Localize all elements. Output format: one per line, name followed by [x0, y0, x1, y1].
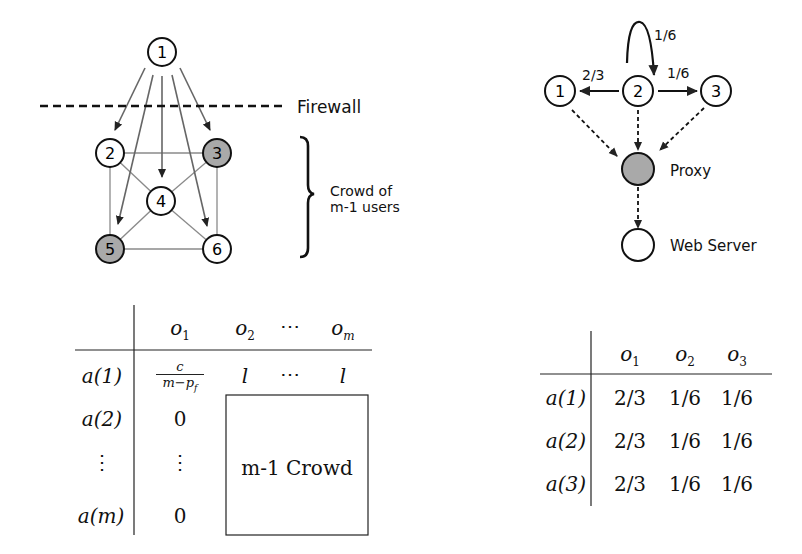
- node-2: 2: [96, 139, 124, 167]
- node-5: 5: [96, 235, 124, 263]
- node-3: 3: [203, 139, 231, 167]
- cell-vdots-o1: ⋮: [155, 450, 205, 474]
- rcell-a1-o3: 1/6: [712, 386, 762, 410]
- row-label-a2: a(2): [72, 407, 132, 431]
- cell-a2-o1: 0: [155, 407, 205, 431]
- self-loop-prob: 1/6: [654, 27, 677, 43]
- crowd-brace: [300, 137, 314, 257]
- rcell-a2-o3: 1/6: [712, 429, 762, 453]
- crowd-box-label: m-1 Crowd: [226, 456, 368, 480]
- rcell-a2-o1: 2/3: [605, 429, 655, 453]
- firewall-label: Firewall: [297, 97, 361, 117]
- crowd-label-line2: m-1 users: [330, 199, 400, 215]
- webserver-label: Web Server: [670, 237, 757, 255]
- cell-a1-om: l: [318, 364, 368, 388]
- rcell-a3-o2: 1/6: [660, 472, 710, 496]
- rnode-1: 1: [545, 76, 575, 106]
- rcell-a1-o1: 2/3: [605, 386, 655, 410]
- col-header-o1: o1: [155, 316, 205, 343]
- row-label-vdots: ⋮: [72, 450, 132, 474]
- svg-text:2: 2: [633, 82, 643, 101]
- svg-text:1: 1: [157, 43, 167, 62]
- svg-text:5: 5: [105, 240, 115, 259]
- to-node1-prob: 2/3: [582, 67, 605, 83]
- rcell-a3-o1: 2/3: [605, 472, 655, 496]
- rcell-a2-o2: 1/6: [660, 429, 710, 453]
- row-label-am: a(m): [68, 504, 134, 528]
- rnode-2: 2: [623, 76, 653, 106]
- col-header-o2: o2: [225, 316, 265, 343]
- rcol-header-o2: o2: [660, 342, 710, 369]
- svg-text:4: 4: [156, 192, 166, 211]
- proxy-node: [622, 153, 654, 185]
- svg-text:3: 3: [212, 144, 222, 163]
- node-4: 4: [147, 187, 175, 215]
- svg-text:1: 1: [555, 82, 565, 101]
- col-header-ellipsis: ⋯: [270, 314, 310, 338]
- node-6: 6: [203, 235, 231, 263]
- node-1: 1: [148, 38, 176, 66]
- rcell-a3-o3: 1/6: [712, 472, 762, 496]
- webserver-node: [622, 229, 654, 261]
- cell-a1-o2: l: [225, 364, 265, 388]
- proxy-label: Proxy: [670, 162, 711, 180]
- cell-am-o1: 0: [155, 504, 205, 528]
- row-label-a1: a(1): [72, 364, 132, 388]
- rrow-label-a3: a(3): [540, 472, 592, 496]
- rrow-label-a2: a(2): [540, 429, 592, 453]
- cell-a1-ellipsis: ⋯: [270, 362, 310, 386]
- rnode-3: 3: [701, 76, 731, 106]
- svg-text:3: 3: [711, 82, 721, 101]
- rrow-label-a1: a(1): [540, 386, 592, 410]
- rcol-header-o1: o1: [605, 342, 655, 369]
- rcell-a1-o2: 1/6: [660, 386, 710, 410]
- svg-text:2: 2: [105, 144, 115, 163]
- to-node3-prob: 1/6: [667, 65, 690, 81]
- crowd-label-line1: Crowd of: [330, 183, 393, 199]
- col-header-om: om: [318, 316, 368, 343]
- rcol-header-o3: o3: [712, 342, 762, 369]
- svg-text:6: 6: [212, 240, 222, 259]
- cell-a1-o1-fraction: c m−pf: [150, 359, 210, 396]
